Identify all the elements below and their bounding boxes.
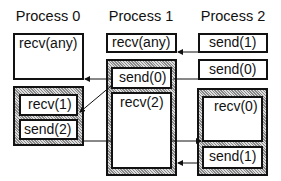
message-arrows — [0, 0, 281, 181]
arrow-p1-to-p0-recv1 — [80, 86, 111, 112]
